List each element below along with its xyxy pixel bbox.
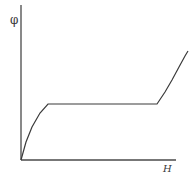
x-axis-label: H <box>163 164 172 174</box>
y-axis-label: φ <box>10 14 18 26</box>
plot-area <box>0 0 192 182</box>
diagram: φ H <box>0 0 192 182</box>
phi-h-curve <box>21 51 188 160</box>
